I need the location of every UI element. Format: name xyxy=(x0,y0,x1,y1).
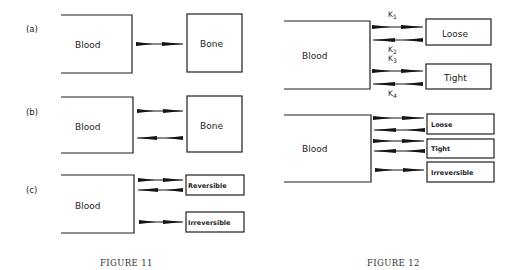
rate-k3-label: K3 xyxy=(388,54,397,64)
blood-label: Blood xyxy=(75,40,100,50)
arrow-left-icon xyxy=(137,136,183,140)
loose-label: Loose xyxy=(442,29,469,39)
panel-label-a: (a) xyxy=(26,24,38,34)
blood-compartment: Blood xyxy=(61,15,132,73)
blood-label: Blood xyxy=(302,51,327,61)
blood-label: Blood xyxy=(302,144,327,154)
arrow-left-icon xyxy=(374,128,425,132)
panel-b: (b) Blood Bone xyxy=(26,96,242,153)
bone-compartment: Bone xyxy=(187,14,242,72)
bone-label: Bone xyxy=(200,121,223,131)
arrow-right-icon xyxy=(136,42,183,46)
panel-a: (a) Blood Bone xyxy=(26,14,242,73)
arrow-right-icon xyxy=(373,139,424,143)
arrow-right-icon xyxy=(373,116,424,120)
figure-12-caption: FIGURE 12 xyxy=(367,258,420,268)
arrow-left-icon xyxy=(373,82,423,86)
irreversible-label: Irreversible xyxy=(431,169,474,177)
panel-c: (c) Blood Reversible Irreversible xyxy=(26,175,244,233)
figure-11: (a) Blood Bone (b) Blood xyxy=(26,14,244,268)
tight-compartment: Tight xyxy=(426,64,491,89)
figure-12: Blood Loose Tight K1 xyxy=(284,10,494,268)
arrow-right-icon xyxy=(372,25,423,29)
rate-k4-label: K4 xyxy=(388,89,397,99)
irreversible-compartment: Irreversible xyxy=(427,162,494,182)
blood-compartment: Blood xyxy=(284,21,370,89)
loose-compartment: Loose xyxy=(426,19,491,45)
loose-label: Loose xyxy=(431,121,453,129)
figure-11-caption: FIGURE 11 xyxy=(100,258,153,268)
panel-top: Blood Loose Tight K1 xyxy=(284,10,491,99)
reversible-label: Reversible xyxy=(188,182,227,190)
arrow-right-icon xyxy=(375,168,424,172)
tight-label: Tight xyxy=(431,145,450,153)
loose-compartment: Loose xyxy=(427,114,494,134)
bone-label: Bone xyxy=(200,39,223,49)
irreversible-label: Irreversible xyxy=(188,219,231,227)
irreversible-compartment: Irreversible xyxy=(186,212,244,232)
panel-bottom: Blood Loose Tight Irreversible xyxy=(284,114,494,182)
arrow-left-icon xyxy=(374,149,425,153)
arrow-left-icon xyxy=(373,38,423,42)
blood-label: Blood xyxy=(75,122,100,132)
arrow-right-icon xyxy=(372,69,423,73)
panel-label-c: (c) xyxy=(26,185,37,195)
blood-compartment: Blood xyxy=(61,175,134,233)
tight-label: Tight xyxy=(443,73,467,83)
rate-k1-label: K1 xyxy=(388,10,397,20)
blood-compartment: Blood xyxy=(61,97,133,153)
bone-compartment: Bone xyxy=(187,96,242,152)
blood-compartment: Blood xyxy=(284,115,371,182)
tight-compartment: Tight xyxy=(427,139,494,158)
panel-label-b: (b) xyxy=(26,107,38,117)
arrow-right-icon xyxy=(139,220,183,224)
arrow-left-icon xyxy=(138,188,183,192)
blood-label: Blood xyxy=(75,201,100,211)
reversible-compartment: Reversible xyxy=(186,175,244,195)
arrow-right-icon xyxy=(138,178,183,182)
arrow-right-icon xyxy=(137,109,183,113)
